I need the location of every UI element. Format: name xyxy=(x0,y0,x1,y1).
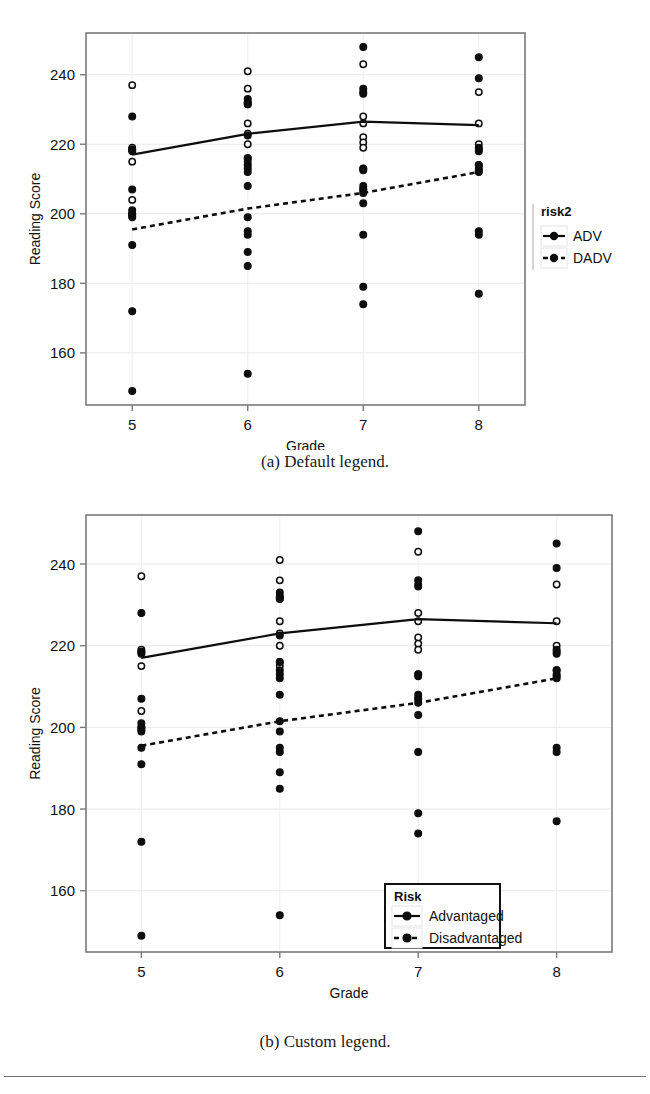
data-point-filled xyxy=(553,818,560,825)
y-axis-title: Reading Score xyxy=(27,687,43,780)
figure-a-caption: (a) Default legend. xyxy=(0,452,650,472)
data-point-open xyxy=(415,610,421,616)
data-point-filled xyxy=(244,183,251,190)
data-point-filled xyxy=(475,231,482,238)
data-point-filled xyxy=(129,113,136,120)
data-point-filled xyxy=(415,712,422,719)
data-point-filled xyxy=(475,148,482,155)
data-point-filled xyxy=(244,214,251,221)
data-point-filled xyxy=(244,231,251,238)
data-point-filled xyxy=(276,691,283,698)
y-tick-label: 200 xyxy=(50,205,75,222)
data-point-filled xyxy=(360,44,367,51)
data-point-filled xyxy=(244,249,251,256)
data-point-filled xyxy=(129,308,136,315)
y-tick-label: 240 xyxy=(50,66,75,83)
scatter-plot-custom-legend: 1601802002202405678GradeReading ScoreRis… xyxy=(0,490,650,1020)
data-point-open xyxy=(129,158,135,164)
data-point-open xyxy=(360,61,366,67)
y-tick-label: 180 xyxy=(50,275,75,292)
data-point-filled xyxy=(138,932,145,939)
data-point-open xyxy=(476,89,482,95)
data-point-filled xyxy=(244,263,251,270)
plot-frame xyxy=(86,33,525,405)
x-tick-label: 6 xyxy=(244,416,252,433)
data-point-open xyxy=(138,708,144,714)
data-point-filled xyxy=(138,695,145,702)
data-point-filled xyxy=(129,186,136,193)
data-point-open xyxy=(360,113,366,119)
data-point-filled xyxy=(360,231,367,238)
x-tick-label: 6 xyxy=(276,963,284,980)
y-tick-label: 180 xyxy=(50,801,75,818)
data-point-filled xyxy=(276,785,283,792)
x-tick-label: 8 xyxy=(552,963,560,980)
y-tick-label: 240 xyxy=(50,556,75,573)
data-point-filled xyxy=(415,673,422,680)
data-point-open xyxy=(360,145,366,151)
data-point-open xyxy=(415,647,421,653)
data-point-filled xyxy=(360,200,367,207)
x-tick-label: 8 xyxy=(475,416,483,433)
data-point-filled xyxy=(276,659,283,666)
data-point-filled xyxy=(138,610,145,617)
data-point-filled xyxy=(360,283,367,290)
plot-frame xyxy=(86,515,612,952)
data-point-filled xyxy=(129,388,136,395)
data-point-filled xyxy=(415,830,422,837)
data-point-open xyxy=(245,120,251,126)
data-point-filled xyxy=(129,214,136,221)
trend-line-dotted xyxy=(132,172,479,229)
data-point-filled xyxy=(360,301,367,308)
x-tick-label: 7 xyxy=(359,416,367,433)
data-point-open xyxy=(245,68,251,74)
data-point-filled xyxy=(138,728,145,735)
data-point-filled xyxy=(553,748,560,755)
data-point-filled xyxy=(415,748,422,755)
data-point-filled xyxy=(244,370,251,377)
data-point-open xyxy=(129,82,135,88)
data-point-filled xyxy=(276,595,283,602)
x-axis-title: Grade xyxy=(330,985,369,1001)
trend-line-solid xyxy=(132,122,479,155)
x-tick-label: 5 xyxy=(128,416,136,433)
data-point-filled xyxy=(276,675,283,682)
data-point-open xyxy=(277,557,283,563)
legend-entry-label: ADV xyxy=(573,228,602,244)
data-point-open xyxy=(277,577,283,583)
trend-line-solid xyxy=(141,619,556,658)
legend-key-marker xyxy=(550,232,557,239)
legend-entry-label: Advantaged xyxy=(429,908,504,924)
data-point-open xyxy=(245,85,251,91)
x-tick-label: 7 xyxy=(414,963,422,980)
data-point-filled xyxy=(553,565,560,572)
data-point-filled xyxy=(129,242,136,249)
data-point-filled xyxy=(360,167,367,174)
data-point-filled xyxy=(475,75,482,82)
data-point-filled xyxy=(276,912,283,919)
legend-title: Risk xyxy=(394,889,422,904)
data-point-filled xyxy=(244,169,251,176)
data-point-open xyxy=(553,581,559,587)
data-point-filled xyxy=(244,155,251,162)
data-point-open xyxy=(245,141,251,147)
data-point-filled xyxy=(553,540,560,547)
legend-title: risk2 xyxy=(541,204,571,219)
data-point-filled xyxy=(138,838,145,845)
data-point-filled xyxy=(138,650,145,657)
data-point-filled xyxy=(276,769,283,776)
y-tick-label: 220 xyxy=(50,136,75,153)
y-tick-label: 160 xyxy=(50,882,75,899)
figure-default-legend: 1601802002202405678GradeReading Scoreris… xyxy=(0,0,650,490)
legend-entry-label: Disadvantaged xyxy=(429,930,522,946)
data-point-filled xyxy=(138,761,145,768)
data-point-open xyxy=(415,549,421,555)
trend-line-dotted xyxy=(141,678,556,745)
data-point-open xyxy=(138,573,144,579)
data-point-open xyxy=(138,663,144,669)
data-point-filled xyxy=(360,90,367,97)
data-point-filled xyxy=(244,101,251,108)
data-point-open xyxy=(277,642,283,648)
legend-key-marker xyxy=(550,254,557,261)
y-axis-title: Reading Score xyxy=(27,172,43,265)
